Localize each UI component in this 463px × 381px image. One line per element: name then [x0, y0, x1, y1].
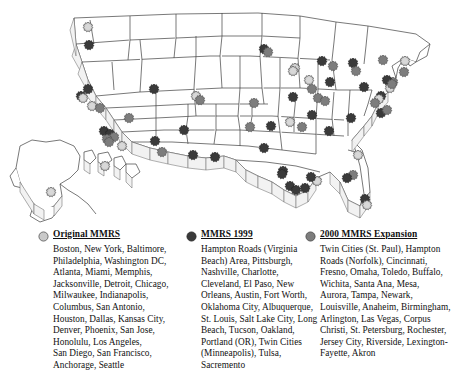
- mmrs-map-figure: Original MMRS Boston, New York, Baltimor…: [0, 0, 463, 381]
- legend-column-expansion-2000: 2000 MMRS Expansion Twin Cities (St. Pau…: [305, 228, 461, 360]
- legend-column-original: Original MMRS Boston, New York, Baltimor…: [38, 228, 178, 372]
- mmrs-1999-marker-icon: [186, 231, 197, 242]
- city-marker-highlight: [355, 152, 361, 158]
- legend-line: St. Louis, Salt Lake City, Long: [201, 314, 319, 326]
- legend-line: Atlanta, Miami, Memphis,: [53, 267, 178, 279]
- legend-line: Roads (Norfolk), Cincinnati,: [320, 256, 461, 268]
- city-marker: [399, 67, 409, 77]
- original-mmrs-marker-icon: [38, 231, 49, 242]
- legend-line: Milwaukee, Indianapolis,: [53, 290, 178, 302]
- legend-line: Portland (OR), Twin Cities: [201, 337, 319, 349]
- legend-line: (Minneapolis), Tulsa,: [201, 348, 319, 360]
- legend-line: Twin Cities (St. Paul), Hampton: [320, 244, 461, 256]
- legend-line: Jacksonville, Detroit, Chicago,: [53, 279, 178, 291]
- city-marker-highlight: [287, 119, 293, 125]
- city-marker-highlight: [364, 202, 370, 208]
- city-marker-highlight: [89, 103, 95, 109]
- legend-column-mmrs-1999: MMRS 1999 Hampton Roads (Virginia Beach)…: [186, 228, 319, 372]
- legend-line: Wichita, Santa Ana, Mesa,: [320, 279, 461, 291]
- legend-title-expansion-2000: 2000 MMRS Expansion: [320, 228, 417, 240]
- legend-line: Sacremento: [201, 360, 319, 372]
- map-legend: Original MMRS Boston, New York, Baltimor…: [0, 228, 463, 381]
- legend-line: Houston, Dallas, Kansas City,: [53, 314, 178, 326]
- legend-line: Nashville, Charlotte,: [201, 267, 319, 279]
- legend-line: Boston, New York, Baltimore,: [53, 244, 178, 256]
- city-marker-highlight: [290, 68, 296, 74]
- legend-line: Arlington, Las Vegas, Corpus: [320, 314, 461, 326]
- legend-line: Anchorage, Seattle: [53, 360, 178, 372]
- legend-header-mmrs-1999: MMRS 1999: [186, 228, 319, 243]
- city-marker-highlight: [119, 143, 125, 149]
- expansion-2000-marker-icon: [305, 231, 316, 242]
- city-marker-highlight: [402, 58, 408, 64]
- legend-cities-original: Boston, New York, Baltimore, Philadelphi…: [38, 244, 178, 372]
- legend-line: Denver, Phoenix, San Jose,: [53, 325, 178, 337]
- city-marker-shape: [399, 67, 409, 77]
- legend-line: Fayette, Akron: [320, 348, 461, 360]
- legend-line: San Diego, San Francisco,: [53, 348, 178, 360]
- legend-line: Louisville, Anaheim, Birmingham,: [320, 302, 461, 314]
- city-marker-highlight: [85, 24, 91, 30]
- legend-line: Cleveland, El Paso, New: [201, 279, 319, 291]
- legend-cities-mmrs-1999: Hampton Roads (Virginia Beach) Area, Pit…: [186, 244, 319, 372]
- legend-line: Oklahoma City, Albuquerque,: [201, 302, 319, 314]
- legend-line: Philadelphia, Washington DC,: [53, 256, 178, 268]
- legend-header-expansion-2000: 2000 MMRS Expansion: [305, 228, 461, 243]
- us-map: [0, 0, 463, 228]
- legend-line: Honolulu, Los Angeles,: [53, 337, 178, 349]
- alaska-inset: [10, 140, 96, 222]
- legend-cities-expansion-2000: Twin Cities (St. Paul), Hampton Roads (N…: [305, 244, 461, 360]
- city-marker-highlight: [48, 189, 54, 195]
- legend-title-mmrs-1999: MMRS 1999: [201, 228, 253, 240]
- city-marker-highlight: [306, 77, 312, 83]
- legend-line: Fresno, Omaha, Toledo, Buffalo,: [320, 267, 461, 279]
- city-marker-highlight: [80, 95, 86, 101]
- legend-line: Hampton Roads (Virginia: [201, 244, 319, 256]
- legend-title-original: Original MMRS: [53, 228, 120, 240]
- hawaii-inset: [84, 150, 140, 178]
- legend-line: Beach, Tucson, Oakland,: [201, 325, 319, 337]
- legend-line: Orleans, Austin, Fort Worth,: [201, 290, 319, 302]
- legend-line: Jersey City, Riverside, Lexington-: [320, 337, 461, 349]
- legend-header-original: Original MMRS: [38, 228, 178, 243]
- legend-line: Beach) Area, Pittsburgh,: [201, 256, 319, 268]
- legend-line: Columbus, San Antonio,: [53, 302, 178, 314]
- city-marker-highlight: [102, 163, 108, 169]
- legend-line: Christi, St. Petersburg, Rochester,: [320, 325, 461, 337]
- legend-line: Aurora, Tampa, Newark,: [320, 290, 461, 302]
- us-map-svg: [0, 0, 463, 228]
